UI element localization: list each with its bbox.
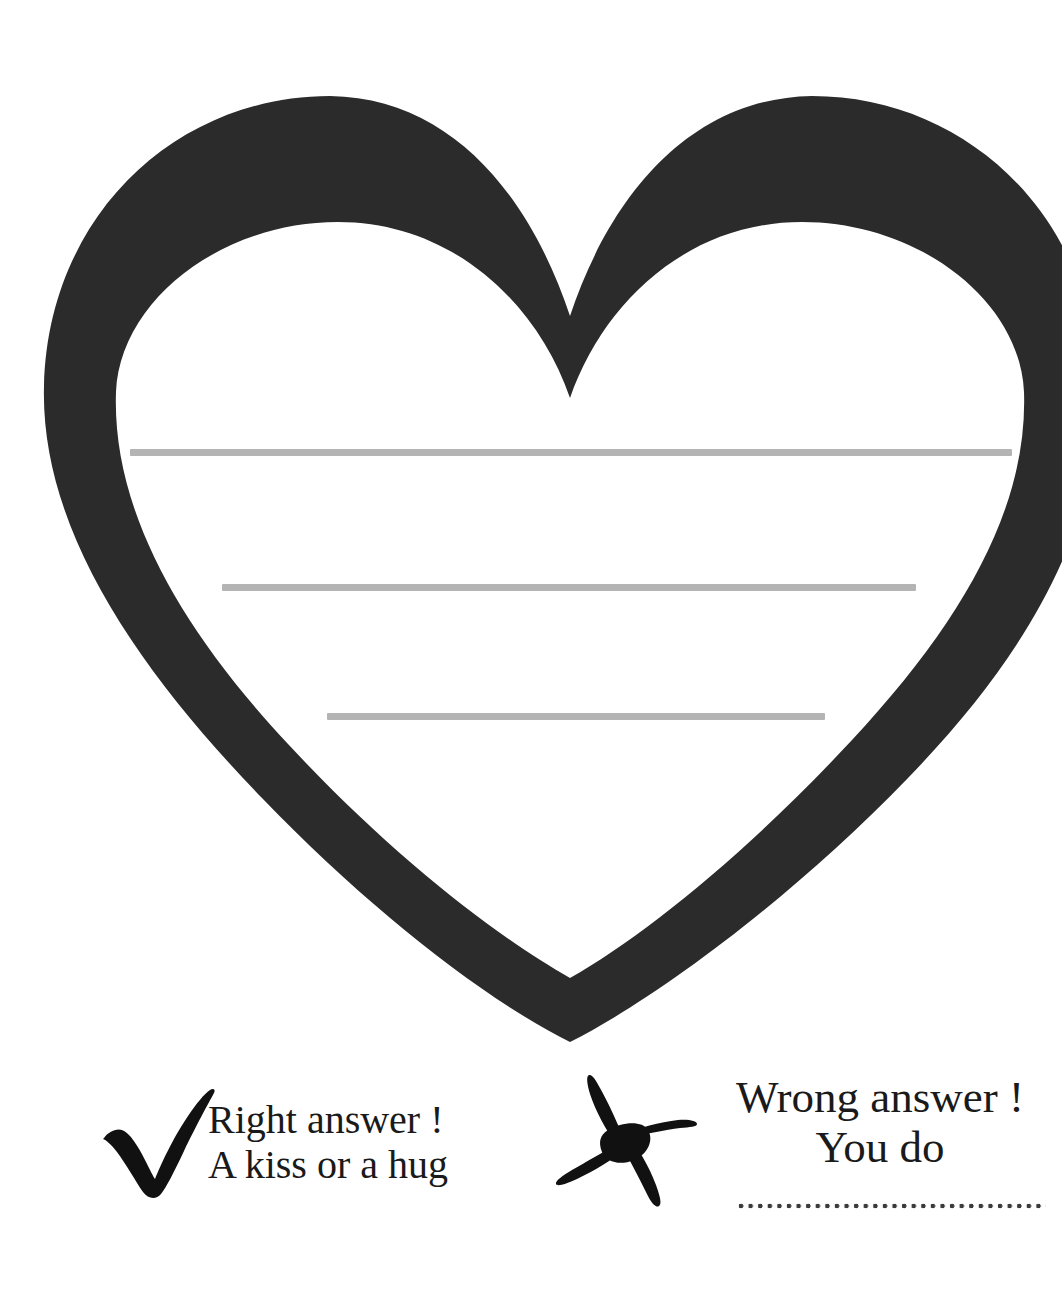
correct-answer-line2: A kiss or a hug [208,1143,448,1188]
check-mark-icon [98,1080,218,1200]
legend-correct-answer: Right answer ! A kiss or a hug [90,1060,520,1299]
writing-line-2 [222,584,916,591]
wrong-answer-line1: Wrong answer ! [736,1072,1024,1122]
correct-answer-text: Right answer ! A kiss or a hug [208,1098,448,1188]
legend-wrong-answer: Wrong answer ! You do [540,1060,1062,1299]
writing-line-3 [327,713,825,720]
heart-writing-card [0,0,1062,1060]
wrong-answer-fill-in-line[interactable] [738,1203,1046,1213]
cross-mark-icon [550,1072,700,1207]
heart-outline-icon [0,0,1062,1060]
worksheet-page: Right answer ! A kiss or a hug Wrong ans… [0,0,1062,1299]
wrong-answer-line2: You do [715,1122,1045,1172]
correct-answer-line1: Right answer ! [208,1097,444,1142]
answer-legend: Right answer ! A kiss or a hug Wrong ans… [0,1060,1062,1299]
wrong-answer-text: Wrong answer ! You do [715,1072,1045,1173]
writing-line-1 [130,449,1012,456]
